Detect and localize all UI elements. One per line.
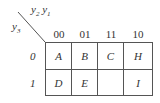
- cell-1-01: E: [72, 70, 98, 96]
- cell-0-11: C: [98, 43, 124, 70]
- cell-1-00: D: [46, 70, 72, 96]
- cell-1-10: I: [124, 70, 152, 96]
- cell-1-11: [98, 70, 124, 96]
- karnaugh-map-grid: A B C H D E I: [45, 42, 153, 96]
- cell-0-10: H: [124, 43, 152, 70]
- column-header-00: 00: [46, 28, 72, 40]
- column-header-10: 10: [125, 28, 151, 40]
- row-variable-label: y3: [12, 21, 20, 37]
- cell-0-00: A: [46, 43, 72, 70]
- row-header-0: 0: [30, 50, 36, 62]
- row-header-1: 1: [30, 77, 36, 89]
- column-header-01: 01: [72, 28, 98, 40]
- cell-0-01: B: [72, 43, 98, 70]
- column-variables-label: y2 y1: [31, 4, 51, 20]
- column-header-11: 11: [98, 28, 124, 40]
